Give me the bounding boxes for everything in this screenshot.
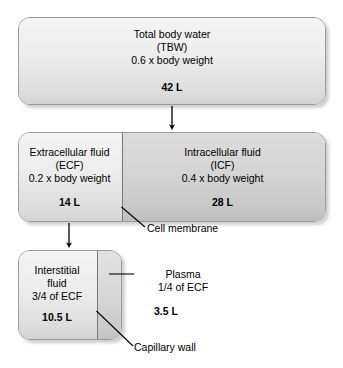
ecf-line-1: Extracellular fluid	[18, 146, 121, 159]
icf-line-3: 0.4 x body weight	[150, 172, 295, 185]
interstitial-line-3: 3/4 of ECF	[16, 290, 98, 303]
cell-membrane-label: Cell membrane	[147, 222, 218, 235]
plasma-label: Plasma 1/4 of ECF	[137, 268, 229, 294]
body-fluid-compartments-diagram: Total body water (TBW) 0.6 x body weight…	[0, 0, 343, 368]
interstitial-line-2: fluid	[16, 277, 98, 290]
interstitial-line-1: Interstitial	[16, 264, 98, 277]
tbw-line-1: Total body water	[92, 28, 252, 41]
cell-membrane-divider	[122, 133, 123, 221]
plasma-volume: 3.5 L	[137, 305, 195, 317]
extracellular-fluid-volume: 14 L	[18, 196, 121, 208]
tbw-line-2: (TBW)	[92, 41, 252, 54]
interstitial-fluid-text: Interstitial fluid 3/4 of ECF	[16, 264, 98, 303]
capillary-wall-label: Capillary wall	[134, 341, 196, 354]
plasma-line-2: 1/4 of ECF	[137, 281, 229, 294]
intracellular-fluid-text: Intracellular fluid (ICF) 0.4 x body wei…	[150, 146, 295, 185]
tbw-line-3: 0.6 x body weight	[92, 54, 252, 67]
total-body-water-volume: 42 L	[92, 81, 252, 93]
ecf-line-3: 0.2 x body weight	[18, 172, 121, 185]
intracellular-fluid-volume: 28 L	[150, 196, 295, 208]
icf-line-2: (ICF)	[150, 159, 295, 172]
ecf-line-2: (ECF)	[18, 159, 121, 172]
total-body-water-text: Total body water (TBW) 0.6 x body weight	[92, 28, 252, 67]
plasma-fill	[97, 251, 121, 339]
interstitial-fluid-volume: 10.5 L	[16, 311, 98, 323]
icf-line-1: Intracellular fluid	[150, 146, 295, 159]
extracellular-fluid-text: Extracellular fluid (ECF) 0.2 x body wei…	[18, 146, 121, 185]
plasma-line-1: Plasma	[137, 268, 229, 281]
